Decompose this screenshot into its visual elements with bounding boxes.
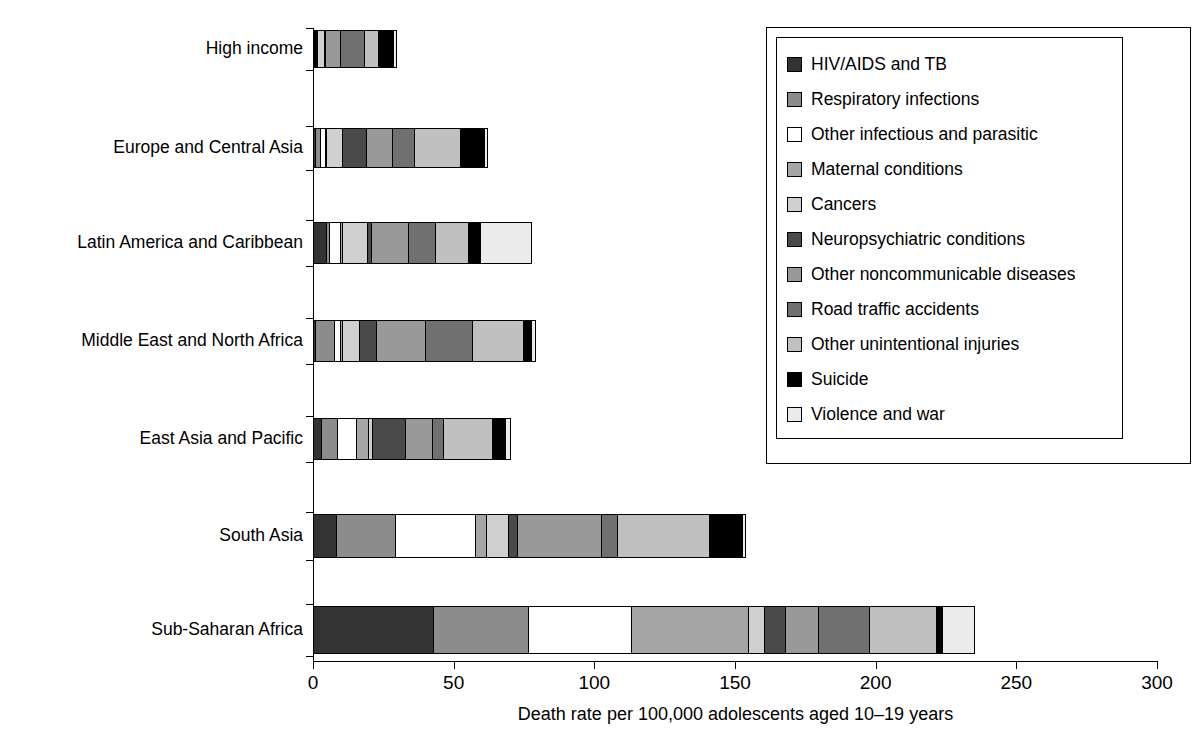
category-label: Latin America and Caribbean — [0, 232, 303, 253]
legend-swatch-icon — [787, 127, 802, 142]
legend-swatch-icon — [787, 372, 802, 387]
legend-item[interactable]: Road traffic accidents — [787, 292, 1122, 327]
x-axis-tick — [454, 661, 455, 669]
bar-segment — [342, 128, 367, 168]
bar-segment — [366, 128, 393, 168]
bar-segment — [313, 514, 337, 558]
bar-segment — [408, 222, 436, 264]
legend-item-label: Other noncommunicable diseases — [811, 266, 1076, 284]
x-axis-tick-label: 150 — [719, 672, 751, 694]
x-axis-tick-label: 250 — [1000, 672, 1032, 694]
bar-segment — [315, 320, 335, 362]
bar-segment — [942, 606, 976, 654]
bar-segment — [364, 30, 379, 68]
legend-swatch-icon — [787, 92, 802, 107]
bar-segment — [336, 514, 396, 558]
legend-item[interactable]: Violence and war — [787, 397, 1122, 432]
bar-segment — [435, 222, 469, 264]
legend-outer-frame: HIV/AIDS and TBRespiratory infectionsOth… — [766, 27, 1191, 464]
legend-item[interactable]: Respiratory infections — [787, 82, 1122, 117]
legend-swatch-icon — [787, 267, 802, 282]
bar-segment — [480, 222, 532, 264]
bar-segment — [359, 320, 377, 362]
legend-swatch-icon — [787, 57, 802, 72]
bar-segment — [371, 222, 409, 264]
bar-row — [313, 222, 532, 264]
category-label: Europe and Central Asia — [0, 137, 303, 158]
x-axis-tick-label: 100 — [578, 672, 610, 694]
bar-segment — [342, 222, 367, 264]
legend-item[interactable]: Cancers — [787, 187, 1122, 222]
y-axis-tick — [306, 656, 313, 657]
legend-items: HIV/AIDS and TBRespiratory infectionsOth… — [787, 47, 1122, 432]
x-axis-tick — [313, 661, 314, 669]
x-axis-tick — [1157, 661, 1158, 669]
bar-row — [313, 30, 397, 68]
y-axis-tick — [306, 318, 313, 319]
bar-segment — [313, 606, 434, 654]
legend-item-label: Other infectious and parasitic — [811, 126, 1038, 144]
bar-segment — [443, 418, 494, 460]
bar-segment — [393, 30, 397, 68]
legend-item[interactable]: Other infectious and parasitic — [787, 117, 1122, 152]
x-axis-tick-label: 0 — [308, 672, 319, 694]
legend-swatch-icon — [787, 162, 802, 177]
y-axis-tick — [306, 70, 313, 71]
legend-item[interactable]: Suicide — [787, 362, 1122, 397]
bar-segment — [392, 128, 416, 168]
bar-segment — [376, 320, 425, 362]
x-axis-tick — [876, 661, 877, 669]
y-axis-tick — [306, 462, 313, 463]
legend-item[interactable]: Other noncommunicable diseases — [787, 257, 1122, 292]
bar-row — [313, 514, 746, 558]
y-axis-tick — [306, 266, 313, 267]
y-axis-tick — [306, 512, 313, 513]
category-label: High income — [0, 38, 303, 59]
legend-item-label: HIV/AIDS and TB — [811, 56, 947, 74]
x-axis-tick-label: 300 — [1141, 672, 1173, 694]
legend-item[interactable]: HIV/AIDS and TB — [787, 47, 1122, 82]
bar-segment — [631, 606, 749, 654]
bar-row — [313, 418, 511, 460]
bar-segment — [505, 418, 511, 460]
y-axis-tick — [306, 170, 313, 171]
legend-item-label: Cancers — [811, 196, 876, 214]
bar-segment — [484, 128, 488, 168]
y-axis-tick — [306, 560, 313, 561]
bar-segment — [425, 320, 473, 362]
x-axis-tick — [735, 661, 736, 669]
y-axis-tick — [306, 220, 313, 221]
bar-segment — [321, 418, 338, 460]
legend: HIV/AIDS and TBRespiratory infectionsOth… — [776, 37, 1123, 439]
bar-segment — [785, 606, 819, 654]
chart-figure: High incomeEurope and Central AsiaLatin … — [0, 0, 1197, 746]
bar-segment — [709, 514, 743, 558]
bar-segment — [342, 320, 360, 362]
legend-item-label: Maternal conditions — [811, 161, 963, 179]
x-axis-tick — [594, 661, 595, 669]
bar-segment — [492, 418, 506, 460]
bar-segment — [528, 606, 632, 654]
bar-segment — [372, 418, 406, 460]
category-label: East Asia and Pacific — [0, 428, 303, 449]
bar-segment — [531, 320, 535, 362]
bar-segment — [433, 606, 529, 654]
legend-item[interactable]: Neuropsychiatric conditions — [787, 222, 1122, 257]
legend-item-label: Violence and war — [811, 406, 945, 424]
bar-segment — [326, 128, 343, 168]
bar-segment — [869, 606, 937, 654]
y-axis-tick — [306, 416, 313, 417]
legend-swatch-icon — [787, 197, 802, 212]
legend-swatch-icon — [787, 232, 802, 247]
legend-item[interactable]: Maternal conditions — [787, 152, 1122, 187]
y-axis-tick — [306, 126, 313, 127]
bar-row — [313, 320, 536, 362]
bar-segment — [378, 30, 393, 68]
x-axis-tick-label: 200 — [860, 672, 892, 694]
legend-item-label: Neuropsychiatric conditions — [811, 231, 1025, 249]
bar-segment — [414, 128, 460, 168]
legend-swatch-icon — [787, 302, 802, 317]
category-label: Sub-Saharan Africa — [0, 619, 303, 640]
legend-item[interactable]: Other unintentional injuries — [787, 327, 1122, 362]
bar-segment — [486, 514, 509, 558]
